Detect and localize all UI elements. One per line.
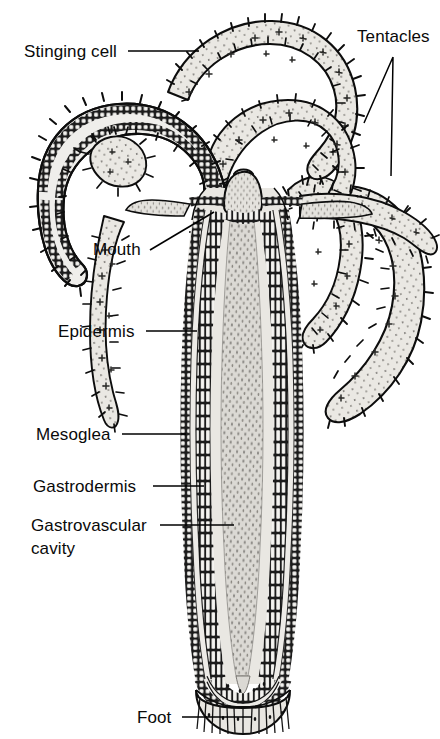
label-mouth: Mouth [93, 240, 141, 259]
label-tentacles: Tentacles [357, 27, 430, 46]
hydra-diagram-svg: Stinging cell Tentacles Mouth Epidermis … [0, 0, 440, 739]
label-foot: Foot [137, 708, 172, 727]
label-gastrovascular-cavity: Gastrovascular [31, 516, 147, 535]
label-gastrodermis: Gastrodermis [33, 477, 136, 496]
hypostome [224, 172, 262, 216]
hydra-anatomy-figure: Stinging cell Tentacles Mouth Epidermis … [0, 0, 440, 739]
label-gastrovascular-cavity-line2: cavity [31, 539, 75, 558]
label-epidermis: Epidermis [58, 322, 134, 341]
label-stinging-cell: Stinging cell [24, 42, 117, 61]
label-mesoglea: Mesoglea [36, 425, 111, 444]
